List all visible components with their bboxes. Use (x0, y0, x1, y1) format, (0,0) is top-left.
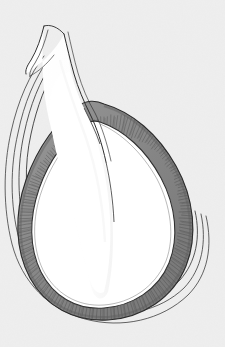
cross-section-illustration (0, 0, 225, 347)
illustration-canvas (0, 0, 225, 347)
